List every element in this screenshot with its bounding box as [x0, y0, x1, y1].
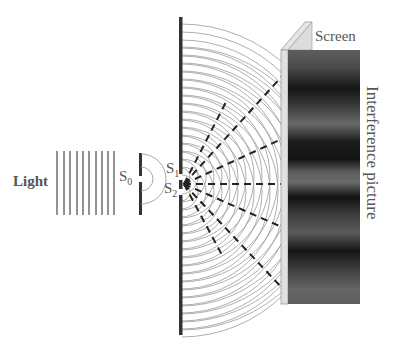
s2-label: S2	[164, 180, 177, 199]
double-slit-barrier	[179, 17, 183, 335]
screen-side	[281, 50, 288, 304]
s2-subscript: 2	[172, 188, 177, 199]
single-slit-barrier	[139, 153, 142, 215]
light-waves	[57, 151, 114, 215]
s1-subscript: 1	[174, 168, 179, 179]
s0-label: S0	[119, 168, 132, 187]
interference-fringes	[288, 50, 360, 304]
double-slit-diagram: Light S0 S1 S2 Screen Interference pictu…	[0, 0, 401, 352]
diagram-canvas	[0, 0, 401, 352]
interference-picture-label: Interference picture	[362, 86, 382, 220]
s0-subscript: 0	[127, 176, 132, 187]
s0-wavefronts	[141, 154, 166, 204]
light-label: Light	[13, 173, 48, 190]
screen-bevel	[288, 22, 312, 50]
screen-label: Screen	[315, 28, 356, 45]
s1-label: S1	[166, 160, 179, 179]
screen	[281, 22, 360, 304]
